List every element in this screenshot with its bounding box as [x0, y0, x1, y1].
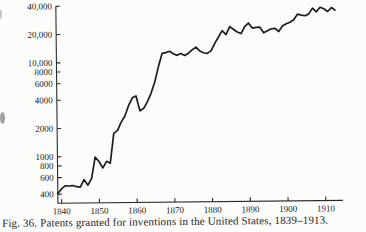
y-tick-label: 6000	[35, 79, 54, 89]
y-tick-label: 800	[40, 161, 54, 171]
axes	[56, 3, 343, 203]
y-tick-label: 2000	[35, 124, 54, 134]
x-tick-label: 1850	[90, 206, 109, 216]
scan-artifact	[0, 112, 5, 124]
figure-caption: Fig. 36. Patents granted for inventions …	[2, 213, 366, 229]
x-tick-label: 1900	[279, 204, 298, 214]
y-tick-label: 400	[40, 189, 54, 199]
patents-chart: 4006008001000200040006000800010,00020,00…	[0, 0, 366, 216]
x-tick-label: 1860	[128, 205, 147, 215]
x-tick-label: 1840	[53, 206, 72, 216]
y-tick-label: 4000	[35, 95, 54, 105]
patents-line	[56, 7, 337, 194]
y-tick-label: 20,000	[27, 30, 52, 40]
x-tick-label: 1870	[166, 205, 185, 215]
x-tick-label: 1880	[204, 205, 223, 215]
x-tick-label: 1890	[241, 204, 260, 214]
y-tick-label: 8000	[34, 67, 53, 77]
x-tick-label: 1910	[317, 203, 336, 213]
y-tick-label: 1000	[35, 152, 54, 162]
scanned-figure: 4006008001000200040006000800010,00020,00…	[0, 0, 366, 232]
y-tick-label: 10,000	[28, 58, 53, 68]
y-tick-label: 600	[40, 173, 54, 183]
y-tick-label: 40,000	[27, 1, 52, 11]
